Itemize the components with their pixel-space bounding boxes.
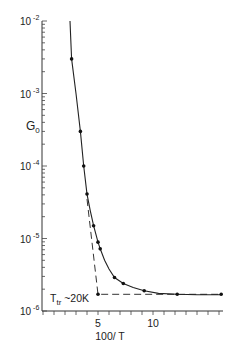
data-point <box>142 289 146 293</box>
fit-curve <box>70 21 221 295</box>
y-tick-label: 10 -4 <box>20 159 39 172</box>
data-point <box>98 247 102 251</box>
data-point <box>70 57 74 61</box>
data-point <box>122 282 126 286</box>
x-tick-label: 10 <box>147 317 159 329</box>
x-tick-label: 5 <box>95 317 101 329</box>
x-tick-labels: 510 <box>95 317 159 329</box>
data-point <box>85 192 89 196</box>
data-point <box>113 276 117 280</box>
y-tick-labels: 10 -210 -310 -410 -510 -6 <box>20 14 39 317</box>
data-point <box>175 292 179 296</box>
data-points <box>70 57 223 296</box>
y-tick-label: 10 -2 <box>20 14 39 27</box>
data-point <box>96 240 100 244</box>
axes <box>42 21 223 315</box>
data-point <box>79 130 83 134</box>
dashed-extrapolation-line <box>87 199 221 294</box>
y-tick-label: 10 -3 <box>20 87 39 100</box>
data-point <box>82 164 86 168</box>
transition-point-marker <box>96 292 100 296</box>
y-tick-label: 10 -5 <box>20 232 39 245</box>
chart: 10 -210 -310 -410 -510 -6 510 G0 100/ T … <box>0 0 233 347</box>
data-point <box>92 224 96 228</box>
transition-temperature-annotation: Ttr ~20K <box>50 292 89 307</box>
y-axis-label: G0 <box>26 119 40 135</box>
x-axis-label: 100/ T <box>95 330 125 342</box>
y-tick-label: 10 -6 <box>20 304 39 317</box>
data-point <box>219 292 223 296</box>
